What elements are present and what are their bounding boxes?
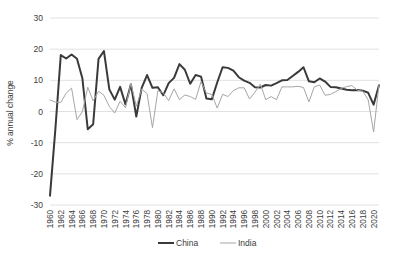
x-tick-label: 2002 (273, 210, 282, 229)
x-tick-label: 2018 (359, 210, 368, 229)
x-tick-label: 1984 (175, 210, 184, 229)
x-tick-label: 1976 (132, 210, 141, 229)
x-tick-label: 1978 (143, 210, 152, 229)
x-tick-label: 1998 (251, 210, 260, 229)
gridlines (50, 18, 379, 205)
x-tick-label: 1960 (46, 210, 55, 229)
x-tick-label: 1972 (111, 210, 120, 229)
x-tick-label: 2006 (294, 210, 303, 229)
y-tick-label: -30 (31, 200, 44, 210)
x-tick-label: 1964 (68, 210, 77, 229)
x-tick-label: 2016 (348, 210, 357, 229)
chart-container: 3020100-10-20-30 19601962196419661968197… (0, 0, 403, 262)
x-tick-label: 1994 (229, 210, 238, 229)
line-chart: 3020100-10-20-30 19601962196419661968197… (0, 0, 403, 262)
x-tick-label: 2020 (370, 210, 379, 229)
x-tick-label: 2000 (262, 210, 271, 229)
y-tick-label: -10 (31, 138, 44, 148)
x-tick-label: 2012 (326, 210, 335, 229)
x-tick-label: 2004 (283, 210, 292, 229)
x-tick-label: 1986 (186, 210, 195, 229)
x-tick-label: 2010 (316, 210, 325, 229)
legend-label-india: India (238, 238, 257, 248)
x-tick-label: 1988 (197, 210, 206, 229)
y-axis-tick-labels: 3020100-10-20-30 (31, 13, 44, 210)
x-tick-label: 1968 (89, 210, 98, 229)
x-tick-label: 1970 (100, 210, 109, 229)
y-tick-label: 30 (34, 13, 44, 23)
y-axis-title: % annual change (5, 80, 15, 146)
y-tick-label: 10 (34, 75, 44, 85)
x-tick-label: 1990 (208, 210, 217, 229)
x-tick-label: 1992 (219, 210, 228, 229)
chart-legend: ChinaIndia (158, 238, 257, 248)
y-tick-label: 0 (38, 107, 43, 117)
y-tick-label: -20 (31, 169, 44, 179)
y-tick-label: 20 (34, 44, 44, 54)
x-tick-label: 2014 (337, 210, 346, 229)
x-tick-label: 1980 (154, 210, 163, 229)
x-tick-label: 1962 (57, 210, 66, 229)
legend-label-china: China (176, 238, 198, 248)
x-tick-label: 1996 (240, 210, 249, 229)
x-tick-label: 2008 (305, 210, 314, 229)
x-tick-label: 1982 (165, 210, 174, 229)
x-axis-tick-labels: 1960196219641966196819701972197419761978… (46, 210, 379, 229)
x-tick-label: 1974 (122, 210, 131, 229)
x-tick-label: 1966 (78, 210, 87, 229)
